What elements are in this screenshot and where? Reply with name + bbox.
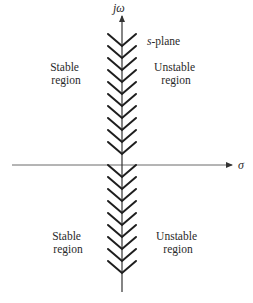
s-plane-diagram: jω σ s-plane Stable region Unstable regi…: [0, 0, 253, 303]
stability-boundary-hatching: [108, 34, 136, 273]
jw-axis-label: jω: [111, 1, 125, 15]
upper-right-region-label: Unstable region: [154, 61, 198, 87]
s-plane-label: s-plane: [147, 35, 180, 48]
lower-left-region-label: Stable region: [52, 230, 84, 256]
sigma-axis-label: σ: [238, 158, 245, 172]
lower-right-region-label: Unstable region: [156, 230, 200, 256]
upper-left-region-label: Stable region: [50, 61, 82, 87]
